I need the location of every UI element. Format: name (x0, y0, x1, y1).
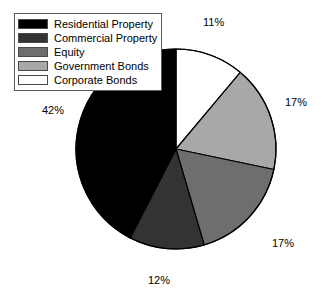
legend-label-corporate-bonds: Corporate Bonds (54, 75, 137, 86)
legend-label-equity: Equity (54, 47, 85, 58)
legend-item-government-bonds: Government Bonds (18, 59, 157, 73)
slice-label-government-bonds: 17% (285, 97, 307, 108)
legend-label-government-bonds: Government Bonds (54, 61, 149, 72)
pie-chart-figure: 11% 17% 17% 12% 42% Residential Property… (0, 0, 326, 301)
legend-swatch-corporate-bonds (18, 75, 48, 85)
legend-swatch-government-bonds (18, 61, 48, 71)
chart-legend: Residential Property Commercial Property… (14, 13, 162, 91)
legend-item-equity: Equity (18, 45, 157, 59)
legend-item-residential-property: Residential Property (18, 17, 157, 31)
legend-swatch-commercial-property (18, 33, 48, 43)
legend-item-corporate-bonds: Corporate Bonds (18, 73, 157, 87)
slice-label-commercial-property: 12% (148, 275, 170, 286)
legend-swatch-equity (18, 47, 48, 57)
slice-label-equity: 17% (272, 238, 294, 249)
legend-label-residential-property: Residential Property (54, 19, 153, 30)
legend-swatch-residential-property (18, 19, 48, 29)
legend-item-commercial-property: Commercial Property (18, 31, 157, 45)
slice-label-corporate-bonds: 11% (203, 17, 224, 28)
slice-label-residential-property: 42% (42, 105, 64, 116)
legend-label-commercial-property: Commercial Property (54, 33, 157, 44)
